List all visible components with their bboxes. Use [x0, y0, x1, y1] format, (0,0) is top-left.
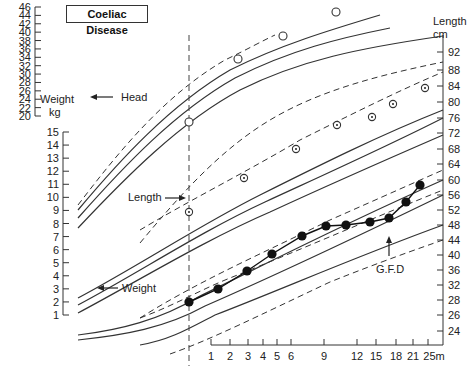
weight-data-point: [341, 220, 350, 229]
svg-text:18: 18: [390, 350, 402, 362]
svg-text:26: 26: [448, 309, 460, 321]
svg-text:1: 1: [53, 309, 59, 321]
weight-data-point: [321, 221, 330, 230]
svg-text:64: 64: [448, 158, 460, 170]
svg-text:20: 20: [19, 110, 31, 122]
svg-text:6: 6: [53, 244, 59, 256]
right-axis: 92888480767268646056524844403632282624: [437, 35, 460, 345]
head-data-point: [279, 32, 287, 40]
svg-text:15: 15: [47, 126, 59, 138]
svg-text:44: 44: [448, 234, 460, 246]
svg-text:Head: Head: [121, 91, 147, 103]
svg-text:88: 88: [448, 64, 460, 76]
svg-text:4: 4: [260, 350, 266, 362]
svg-text:5: 5: [53, 257, 59, 269]
svg-text:25m: 25m: [423, 350, 444, 362]
svg-text:5: 5: [274, 350, 280, 362]
svg-text:40: 40: [448, 249, 460, 261]
svg-text:Weight: Weight: [122, 282, 156, 294]
svg-text:15: 15: [370, 350, 382, 362]
weight-axis-label-1: Weight: [40, 93, 74, 105]
svg-text:11: 11: [48, 178, 59, 190]
svg-text:84: 84: [448, 80, 460, 92]
head-data-point: [185, 118, 193, 126]
head-data-point: [234, 55, 242, 63]
svg-text:52: 52: [448, 204, 460, 216]
svg-text:80: 80: [448, 96, 460, 108]
svg-text:14: 14: [47, 139, 59, 151]
svg-text:48: 48: [448, 219, 460, 231]
svg-text:9: 9: [321, 350, 327, 362]
svg-text:28: 28: [448, 294, 460, 306]
svg-text:3: 3: [245, 350, 251, 362]
x-axis: 12345691215182125m: [208, 339, 445, 362]
svg-text:1: 1: [208, 350, 214, 362]
svg-text:4: 4: [53, 270, 59, 282]
left-inner-axis: 151413121110987654321: [47, 126, 69, 321]
svg-text:36: 36: [448, 264, 460, 276]
weight-data-point: [384, 213, 393, 222]
weight-data-point: [242, 266, 251, 275]
head-data-point: [332, 8, 340, 16]
weight-data-point: [415, 180, 424, 189]
svg-text:9: 9: [53, 204, 59, 216]
weight-axis-label-2: kg: [49, 106, 61, 118]
growth-chart: 4644424038363432302826242220 15141312111…: [0, 0, 475, 366]
svg-text:G.F.D: G.F.D: [376, 263, 404, 275]
weight-data-point: [267, 249, 276, 258]
svg-text:13: 13: [47, 152, 59, 164]
svg-text:92: 92: [448, 46, 460, 58]
arrow-right-icon: [179, 195, 186, 201]
svg-text:32: 32: [448, 279, 460, 291]
left-outer-axis: 4644424038363432302826242220: [19, 1, 41, 122]
svg-text:2: 2: [53, 296, 59, 308]
svg-text:24: 24: [448, 325, 460, 337]
svg-text:10: 10: [47, 191, 59, 203]
svg-text:56: 56: [448, 189, 460, 201]
head-annotation: Head: [90, 91, 147, 103]
svg-text:68: 68: [448, 143, 460, 155]
length-annotation: Length: [128, 191, 186, 203]
centile-curves: [78, 15, 443, 354]
svg-text:12: 12: [47, 165, 59, 177]
weight-data-point: [184, 297, 193, 306]
weight-annotation: Weight: [97, 282, 156, 294]
svg-text:60: 60: [448, 174, 460, 186]
svg-text:7: 7: [53, 231, 59, 243]
svg-text:76: 76: [448, 112, 460, 124]
svg-text:12: 12: [351, 350, 363, 362]
weight-data-point: [213, 284, 222, 293]
weight-data-point: [401, 197, 410, 206]
svg-text:21: 21: [407, 350, 419, 362]
svg-text:8: 8: [53, 218, 59, 230]
svg-text:72: 72: [448, 127, 460, 139]
weight-data-point: [297, 231, 306, 240]
svg-text:Length: Length: [128, 191, 162, 203]
right-axis-label-line1: Length: [433, 15, 467, 27]
arrow-up-icon: [386, 236, 392, 243]
arrow-left-icon: [90, 94, 97, 100]
svg-text:2: 2: [227, 350, 233, 362]
svg-text:6: 6: [288, 350, 294, 362]
svg-text:3: 3: [53, 283, 59, 295]
weight-data-point: [365, 217, 374, 226]
right-axis-label-line2: cm: [433, 28, 448, 40]
